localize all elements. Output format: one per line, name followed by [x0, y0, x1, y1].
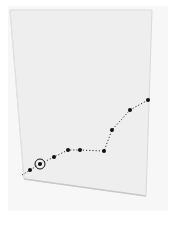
data-point	[128, 108, 132, 112]
data-point	[146, 98, 150, 102]
data-point	[52, 155, 56, 159]
paper-sheet	[10, 10, 152, 196]
chart-illustration	[0, 0, 176, 229]
data-point	[28, 168, 32, 172]
data-point	[66, 148, 70, 152]
data-point	[110, 128, 114, 132]
data-point	[102, 149, 106, 153]
data-point	[78, 148, 82, 152]
data-point	[38, 162, 42, 166]
